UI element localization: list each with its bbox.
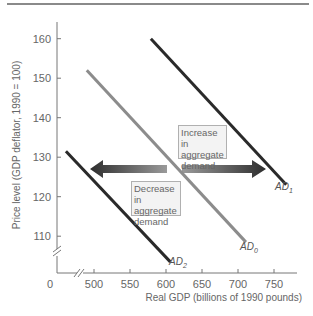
- x-axis-title: Real GDP (billions of 1990 pounds): [145, 292, 302, 303]
- increase-note-line1: Increase in: [181, 127, 224, 149]
- origin-label: 0: [47, 278, 53, 290]
- decrease-arrow: [90, 160, 167, 178]
- aggregate-demand-chart: 1101201301401501605005506006507007500Rea…: [0, 0, 313, 316]
- axes: 1101201301401501605005506006507007500Rea…: [11, 22, 302, 303]
- x-tick-label: 650: [193, 278, 211, 290]
- decrease-note-line2: aggregate: [134, 205, 178, 216]
- x-tick-label: 700: [229, 278, 247, 290]
- x-tick-label: 550: [121, 278, 139, 290]
- increase-note: Increase in aggregate demand: [178, 125, 227, 159]
- y-tick-label: 150: [33, 72, 51, 84]
- curve-label-ad1: AD1: [274, 181, 293, 194]
- x-tick-label: 750: [265, 278, 283, 290]
- increase-note-line2: aggregate: [181, 149, 224, 160]
- x-tick-label: 500: [85, 278, 103, 290]
- increase-note-line3: demand: [181, 160, 224, 171]
- x-tick-label: 600: [157, 278, 175, 290]
- y-axis-title: Price level (GDP deflator, 1990 = 100): [11, 61, 22, 230]
- decrease-note-line3: demand: [134, 216, 178, 227]
- curve-label-ad0: AD0: [239, 241, 258, 254]
- y-tick-label: 130: [33, 151, 51, 163]
- y-tick-label: 140: [33, 112, 51, 124]
- y-tick-label: 160: [33, 33, 51, 45]
- y-tick-label: 120: [33, 191, 51, 203]
- decrease-note-line1: Decrease in: [134, 183, 178, 205]
- decrease-note: Decrease in aggregate demand: [131, 181, 181, 216]
- curve-label-ad2: AD2: [168, 256, 187, 269]
- y-tick-label: 110: [33, 230, 51, 242]
